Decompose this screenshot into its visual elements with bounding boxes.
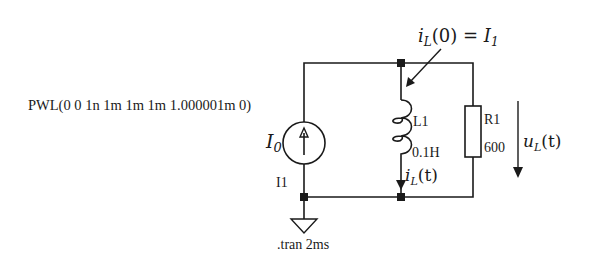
inductor-icon — [393, 100, 412, 160]
source-waveform-label: PWL(0 0 1n 1m 1m 1m 1.000001m 0) — [28, 97, 251, 114]
circuit-diagram: I0 I1 PWL(0 0 1n 1m 1m 1m 1.000001m 0) L… — [0, 0, 603, 262]
junction-bottom-left — [300, 193, 308, 201]
ground-icon — [291, 219, 317, 233]
wires — [304, 63, 473, 197]
junction-top — [397, 59, 405, 67]
initial-condition-label: iL(0) = I1 — [418, 25, 499, 49]
inductor-name-label: L1 — [413, 114, 429, 129]
source-symbol-label: I0 — [265, 130, 282, 155]
top-wire — [304, 63, 473, 122]
initial-condition-pointer — [410, 49, 441, 82]
resistor-name-label: R1 — [484, 112, 500, 127]
voltage-arrow-icon — [513, 167, 523, 178]
inductor-value-label: 0.1H — [412, 145, 440, 160]
tran-directive-label: .tran 2ms — [277, 237, 329, 252]
resistor-voltage-label: uL(t) — [523, 131, 561, 154]
inductor-current-label: iL(t) — [405, 165, 438, 188]
source-name-label: I1 — [276, 175, 288, 190]
junction-bottom-mid — [397, 193, 405, 201]
current-source-icon — [283, 122, 325, 164]
bottom-wire — [304, 157, 473, 197]
resistor-icon — [465, 106, 481, 157]
resistor-value-label: 600 — [484, 140, 505, 155]
